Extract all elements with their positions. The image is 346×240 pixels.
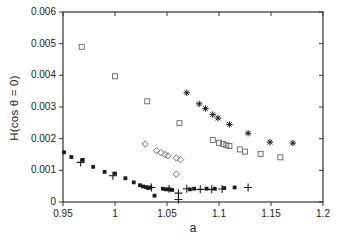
plus-signs-marker bbox=[208, 185, 216, 193]
y-tick-label: 0 bbox=[50, 196, 56, 207]
filled-squares-marker bbox=[205, 187, 209, 191]
open-squares-marker bbox=[278, 155, 283, 160]
filled-squares-marker bbox=[81, 158, 85, 162]
asterisks-marker bbox=[226, 121, 232, 127]
y-tick-label: 0.002 bbox=[31, 133, 56, 144]
filled-squares-marker bbox=[103, 170, 107, 174]
open-squares-marker bbox=[243, 149, 248, 154]
asterisks-marker bbox=[210, 111, 216, 117]
filled-squares-marker bbox=[188, 187, 192, 191]
open-diamonds-marker bbox=[165, 153, 171, 159]
plus-signs-marker bbox=[147, 183, 155, 191]
asterisks-marker bbox=[215, 115, 221, 121]
open-diamonds-marker bbox=[142, 141, 148, 147]
asterisks-marker bbox=[245, 130, 251, 136]
asterisks-marker bbox=[184, 90, 190, 96]
asterisks-marker bbox=[290, 140, 296, 146]
open-squares-marker bbox=[177, 121, 182, 126]
axis-box bbox=[63, 12, 323, 202]
plus-signs-marker bbox=[196, 185, 204, 193]
x-axis-title: a bbox=[190, 221, 197, 235]
filled-squares-marker bbox=[69, 155, 73, 159]
plus-signs-marker bbox=[183, 185, 191, 193]
asterisks-marker bbox=[202, 105, 208, 111]
asterisks-marker bbox=[267, 139, 273, 145]
filled-squares-marker bbox=[62, 150, 66, 154]
y-tick-label: 0.006 bbox=[31, 6, 56, 17]
open-squares-marker bbox=[210, 137, 215, 142]
y-tick-label: 0.003 bbox=[31, 101, 56, 112]
filled-squares-marker bbox=[213, 187, 217, 191]
y-tick-label: 0.005 bbox=[31, 38, 56, 49]
plus-signs-marker bbox=[244, 183, 252, 191]
x-tick-label: 0.95 bbox=[53, 208, 73, 219]
y-tick-label: 0.001 bbox=[31, 164, 56, 175]
open-diamonds-marker bbox=[173, 171, 179, 177]
x-tick-label: 1.1 bbox=[212, 208, 226, 219]
open-squares-marker bbox=[145, 99, 150, 104]
filled-squares-marker bbox=[113, 172, 117, 176]
plot-area: 0.9511.051.11.151.200.0010.0020.0030.004… bbox=[0, 0, 346, 240]
filled-squares-marker bbox=[132, 180, 136, 184]
scatter-plot-figure: H(cos θ = 0) 0.9511.051.11.151.200.0010.… bbox=[0, 0, 346, 240]
open-squares-marker bbox=[237, 147, 242, 152]
x-tick-label: 1.05 bbox=[157, 208, 177, 219]
y-tick-label: 0.004 bbox=[31, 69, 56, 80]
open-squares-marker bbox=[79, 44, 84, 49]
filled-squares-marker bbox=[153, 194, 157, 198]
open-squares-marker bbox=[113, 74, 118, 79]
asterisks-marker bbox=[196, 101, 202, 107]
filled-squares-marker bbox=[233, 186, 237, 190]
filled-squares-marker bbox=[91, 165, 95, 169]
x-tick-label: 1.15 bbox=[261, 208, 281, 219]
filled-squares-marker bbox=[192, 187, 196, 191]
open-squares-marker bbox=[258, 151, 263, 156]
filled-squares-marker bbox=[124, 176, 128, 180]
x-tick-label: 1.2 bbox=[316, 208, 330, 219]
x-tick-label: 1 bbox=[112, 208, 118, 219]
